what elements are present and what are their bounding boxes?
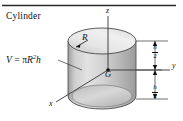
axis-z-label: z <box>106 7 109 15</box>
axis-y-label: y <box>172 62 176 70</box>
dimension-lower-denominator: 2 <box>148 93 162 100</box>
figure-title: Cylinder <box>6 12 41 22</box>
cylinder-figure: Cylinder V=πR2h z y x R G h 2 h 2 <box>0 0 183 121</box>
centroid-label: G <box>105 70 111 79</box>
dimension-arrowhead-lower-top <box>153 70 157 75</box>
dimension-lower-numerator: h <box>148 84 162 91</box>
dimension-label-upper: h 2 <box>148 44 162 60</box>
cylinder-bottom-face <box>72 85 132 107</box>
dimension-arrowhead-upper-bottom <box>153 65 157 70</box>
axis-x-label: x <box>49 100 53 108</box>
dimension-upper-denominator: 2 <box>148 53 162 60</box>
formula-lhs: V <box>6 55 12 65</box>
volume-formula: V=πR2h <box>6 54 41 66</box>
dimension-label-lower: h 2 <box>148 84 162 100</box>
cylinder-top-face <box>68 28 136 54</box>
formula-height-symbol: h <box>36 55 41 65</box>
dimension-upper-numerator: h <box>148 44 162 51</box>
formula-equals: = <box>14 55 20 65</box>
radius-label: R <box>82 33 88 42</box>
